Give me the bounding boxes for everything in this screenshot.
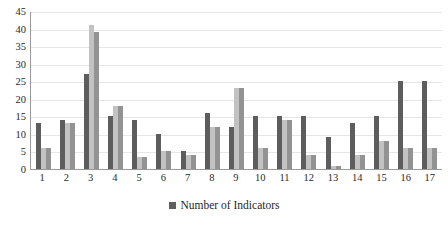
x-axis-tick-label: 8 [200, 172, 224, 185]
y-axis-tick-label: 25 [16, 77, 27, 88]
y-axis-tick-label: 10 [16, 130, 27, 141]
x-axis-tick-label: 15 [369, 172, 393, 185]
bar [70, 123, 75, 169]
x-axis-tick-label: 12 [297, 172, 321, 185]
x-axis-tick-label: 10 [248, 172, 272, 185]
bar-group [156, 12, 171, 169]
x-axis-tick-label: 4 [103, 172, 127, 185]
bar [142, 157, 147, 169]
bar-group [60, 12, 75, 169]
y-axis-tick-label: 15 [16, 112, 27, 123]
bar-group [350, 12, 365, 169]
bar [336, 166, 341, 170]
y-axis-tick-label: 45 [16, 7, 27, 18]
chart-legend: Number of Indicators [0, 200, 448, 212]
bar-group [326, 12, 341, 169]
bar [46, 148, 51, 169]
bar-group [36, 12, 51, 169]
x-axis-tick-label: 5 [127, 172, 151, 185]
y-axis: 454035302520151050 [0, 12, 30, 170]
x-axis-tick-label: 16 [394, 172, 418, 185]
legend-swatch-icon [169, 202, 176, 209]
legend-label: Number of Indicators [181, 200, 280, 212]
y-axis-tick-label: 5 [21, 147, 26, 158]
bar [94, 32, 99, 169]
x-axis: 1234567891011121314151617 [30, 172, 442, 188]
plot-area [30, 12, 442, 170]
bar [360, 155, 365, 169]
bar-group [277, 12, 292, 169]
bar-groups [31, 12, 442, 169]
bar [215, 127, 220, 169]
bar [166, 151, 171, 169]
bar [191, 155, 196, 169]
bar [118, 106, 123, 169]
bar-group [374, 12, 389, 169]
x-axis-tick-label: 2 [54, 172, 78, 185]
y-axis-tick-label: 35 [16, 42, 27, 53]
bar-group [398, 12, 413, 169]
x-axis-tick-label: 1 [30, 172, 54, 185]
bar-group [229, 12, 244, 169]
bar [326, 137, 331, 169]
x-axis-tick-label: 17 [418, 172, 442, 185]
x-axis-tick-label: 9 [224, 172, 248, 185]
x-axis-tick-label: 13 [321, 172, 345, 185]
bar-group [301, 12, 316, 169]
bar [311, 155, 316, 169]
bar [239, 88, 244, 169]
y-axis-tick-label: 20 [16, 95, 27, 106]
y-axis-tick-label: 0 [21, 165, 26, 176]
x-axis-tick-label: 3 [78, 172, 102, 185]
bar-group [181, 12, 196, 169]
bar [408, 148, 413, 169]
x-axis-tick-label: 6 [151, 172, 175, 185]
bar-group [253, 12, 268, 169]
bar-group [108, 12, 123, 169]
y-axis-tick-label: 30 [16, 59, 27, 70]
bar-group [84, 12, 99, 169]
bar-group [422, 12, 437, 169]
bar [263, 148, 268, 169]
x-axis-tick-label: 7 [175, 172, 199, 185]
bar-group [205, 12, 220, 169]
x-axis-tick-label: 11 [272, 172, 296, 185]
bar [384, 141, 389, 169]
x-axis-tick-label: 14 [345, 172, 369, 185]
bar-group [132, 12, 147, 169]
bar [287, 120, 292, 169]
y-axis-tick-label: 40 [16, 24, 27, 35]
bar [432, 148, 437, 169]
bar-chart: 454035302520151050 123456789101112131415… [0, 0, 448, 229]
